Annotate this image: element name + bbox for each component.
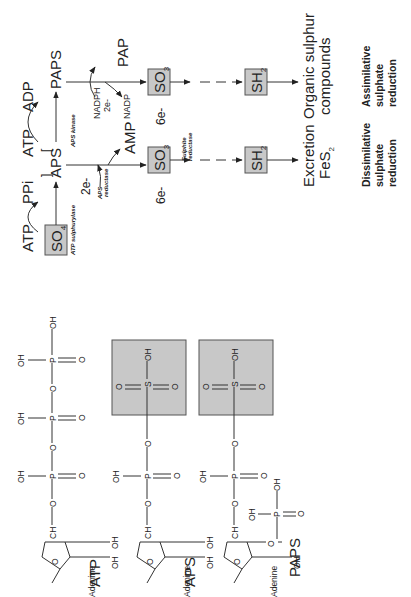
svg-text:PAP: PAP bbox=[114, 38, 131, 67]
rotated-figure: Adenine O OH OH ATP CH O P OH O O P OH O… bbox=[0, 0, 411, 597]
aps-name: APS bbox=[181, 557, 198, 587]
svg-text:O: O bbox=[143, 500, 153, 507]
svg-text:O: O bbox=[266, 540, 276, 547]
svg-text:O: O bbox=[143, 440, 153, 447]
svg-text:OH: OH bbox=[247, 508, 257, 521]
svg-text:Adenine: Adenine bbox=[269, 566, 279, 597]
enzyme-aps-kinase: APS kinase bbox=[70, 114, 76, 148]
atp-name: ATP bbox=[86, 559, 103, 587]
enzyme-atp-sulphurylase: ATP sulphurylase bbox=[70, 204, 76, 256]
svg-text:CH: CH bbox=[143, 527, 153, 539]
svg-text:P: P bbox=[272, 511, 282, 517]
svg-text:O: O bbox=[230, 440, 240, 447]
svg-text:reductase: reductase bbox=[103, 168, 109, 197]
svg-text:O: O bbox=[48, 385, 58, 392]
svg-text:S: S bbox=[230, 381, 240, 387]
svg-text:O: O bbox=[201, 383, 211, 390]
svg-text:O: O bbox=[50, 558, 60, 565]
atp-structure: Adenine O OH OH ATP CH O P OH O O P OH O… bbox=[16, 316, 120, 597]
ppi-output: PPi bbox=[19, 181, 36, 204]
paps-name: PAPS bbox=[286, 538, 303, 577]
paps-node: PAPS bbox=[47, 50, 64, 89]
svg-text:O: O bbox=[257, 383, 267, 390]
svg-text:OH: OH bbox=[16, 470, 26, 483]
svg-text:6e-: 6e- bbox=[154, 187, 168, 204]
svg-text:CH: CH bbox=[230, 527, 240, 539]
svg-text:OH: OH bbox=[110, 536, 120, 549]
svg-text:NADP: NADP bbox=[122, 94, 132, 119]
svg-text:P: P bbox=[143, 473, 153, 479]
svg-text:O: O bbox=[230, 500, 240, 507]
svg-text:ATP: ATP bbox=[19, 129, 36, 157]
svg-text:OH: OH bbox=[205, 536, 215, 549]
svg-text:O: O bbox=[114, 383, 124, 390]
svg-text:sulphate: sulphate bbox=[373, 144, 385, 187]
svg-text:O: O bbox=[172, 472, 182, 479]
svg-text:]: ] bbox=[39, 174, 53, 177]
svg-text:OH: OH bbox=[272, 478, 282, 491]
svg-text:reductase: reductase bbox=[187, 132, 193, 161]
svg-text:Assimilative: Assimilative bbox=[360, 46, 372, 107]
svg-text:OH: OH bbox=[111, 470, 121, 483]
svg-text:O: O bbox=[48, 500, 58, 507]
svg-text:O: O bbox=[48, 444, 58, 451]
svg-text:S: S bbox=[143, 381, 153, 387]
svg-text:P: P bbox=[230, 473, 240, 479]
svg-text:P: P bbox=[48, 357, 58, 363]
svg-text:O: O bbox=[232, 558, 242, 565]
svg-text:OH: OH bbox=[16, 412, 26, 425]
svg-text:O: O bbox=[259, 472, 269, 479]
svg-text:OH: OH bbox=[205, 556, 215, 569]
svg-text:CH: CH bbox=[48, 527, 58, 539]
svg-text:P: P bbox=[48, 415, 58, 421]
svg-text:Dissimilative: Dissimilative bbox=[360, 123, 372, 187]
svg-text:reduction: reduction bbox=[386, 139, 398, 187]
sulphate-reduction-diagram: Adenine O OH OH ATP CH O P OH O O P OH O… bbox=[0, 0, 411, 597]
svg-text:O: O bbox=[296, 510, 306, 517]
svg-text:O: O bbox=[145, 558, 155, 565]
svg-text:6e-: 6e- bbox=[154, 108, 168, 125]
svg-text:AMP: AMP bbox=[121, 121, 138, 154]
svg-text:Organic sulphur: Organic sulphur bbox=[300, 13, 317, 119]
svg-text:OH: OH bbox=[110, 556, 120, 569]
svg-text:NADPH: NADPH bbox=[92, 87, 102, 119]
svg-text:O: O bbox=[170, 383, 180, 390]
svg-text:reduction: reduction bbox=[386, 59, 398, 107]
two-electron-label: 2e- bbox=[79, 178, 93, 195]
svg-text:OH: OH bbox=[198, 470, 208, 483]
svg-text:[: [ bbox=[39, 148, 53, 152]
svg-text:2e-: 2e- bbox=[102, 99, 112, 112]
svg-text:P: P bbox=[48, 473, 58, 479]
svg-text:O: O bbox=[77, 472, 87, 479]
svg-text:OH: OH bbox=[143, 348, 153, 361]
svg-text:OH: OH bbox=[16, 354, 26, 367]
svg-text:FeS2: FeS2 bbox=[316, 146, 336, 179]
svg-text:O: O bbox=[77, 356, 87, 363]
svg-text:OH: OH bbox=[48, 316, 58, 329]
svg-text:Excretion: Excretion bbox=[300, 124, 317, 187]
svg-text:sulphate: sulphate bbox=[373, 64, 385, 107]
svg-text:O: O bbox=[77, 414, 87, 421]
pathway: SO4 ATP PPi ATP sulphurylase APS [ ] ATP… bbox=[19, 13, 398, 256]
svg-text:compounds: compounds bbox=[316, 37, 333, 115]
svg-text:OH: OH bbox=[230, 348, 240, 361]
